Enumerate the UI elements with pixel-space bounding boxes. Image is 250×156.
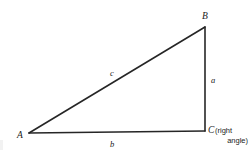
- right-angle-note-line-2: angle): [215, 136, 250, 146]
- right-triangle-diagram: A B C a b c (right angle): [0, 0, 250, 156]
- right-angle-note-line-1: (right: [215, 126, 232, 135]
- right-angle-annotation: (right angle): [215, 126, 250, 145]
- side-label-b: b: [110, 140, 114, 149]
- side-label-a: a: [211, 76, 215, 85]
- vertex-label-b: B: [202, 12, 208, 22]
- side-c-hypotenuse-line: [29, 27, 205, 133]
- page-edge-artifact: [0, 140, 3, 150]
- vertex-label-c: C: [208, 126, 214, 136]
- vertex-label-a: A: [17, 131, 23, 141]
- side-label-c: c: [110, 69, 114, 78]
- side-b-horizontal-line: [29, 131, 205, 133]
